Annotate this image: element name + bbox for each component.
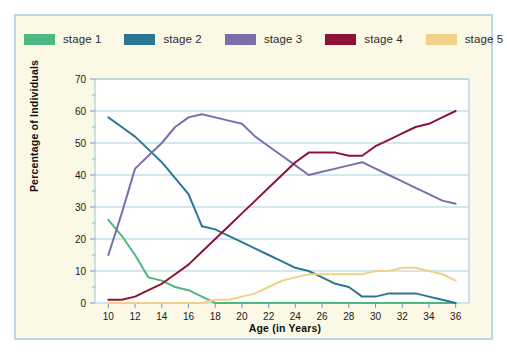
legend-swatch-stage-4	[325, 34, 356, 45]
legend-item-stage-1[interactable]: stage 1	[24, 33, 101, 45]
legend-label-stage-4: stage 4	[364, 33, 402, 45]
legend-swatch-stage-5	[426, 34, 457, 45]
legend-label-stage-3: stage 3	[264, 33, 302, 45]
legend-item-stage-3[interactable]: stage 3	[225, 33, 302, 45]
legend-label-stage-2: stage 2	[163, 33, 201, 45]
legend-swatch-stage-3	[225, 34, 256, 45]
chart-figure: stage 1 stage 2 stage 3 stage 4 stage 5 …	[0, 0, 507, 356]
legend-item-stage-2[interactable]: stage 2	[124, 33, 201, 45]
legend-label-stage-1: stage 1	[63, 33, 101, 45]
legend-swatch-stage-2	[124, 34, 155, 45]
chart-panel	[14, 14, 493, 340]
legend-swatch-stage-1	[24, 34, 55, 45]
legend-label-stage-5: stage 5	[465, 33, 503, 45]
legend-item-stage-5[interactable]: stage 5	[426, 33, 503, 45]
y-axis-title: Percentage of Individuals	[28, 46, 40, 206]
chart-legend: stage 1 stage 2 stage 3 stage 4 stage 5	[24, 28, 464, 50]
x-axis-title: Age (in Years)	[90, 322, 480, 334]
legend-item-stage-4[interactable]: stage 4	[325, 33, 402, 45]
